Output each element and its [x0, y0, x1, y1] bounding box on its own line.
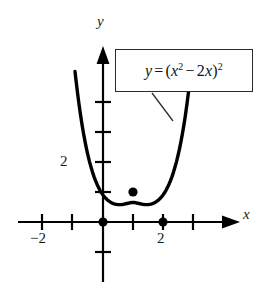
point-marker-local-max — [128, 187, 137, 196]
equation-inner-exponent: 2 — [178, 61, 183, 72]
x-tick-label-negative-2: −2 — [30, 231, 46, 246]
equation-text: y=(x2−2x)2 — [145, 61, 223, 80]
equation-coefficient: 2 — [197, 62, 205, 79]
y-axis-arrowhead — [97, 46, 110, 64]
point-marker-local-min-origin — [98, 217, 107, 226]
equation-minus: − — [184, 62, 197, 79]
plot-canvas — [0, 0, 267, 302]
x-tick-label-2: 2 — [157, 231, 165, 246]
equation-callout-box: y=(x2−2x)2 — [115, 49, 253, 92]
leader-line — [152, 93, 173, 121]
x-axis-arrowhead — [222, 216, 240, 229]
y-axis-label: y — [97, 14, 104, 29]
equation-outer-exponent: 2 — [218, 61, 223, 72]
x-axis-label: x — [243, 207, 250, 222]
point-marker-local-min-two — [158, 217, 167, 226]
equation-equals: = — [152, 62, 165, 79]
function-graph-figure: y x 2 2 −2 y=(x2−2x)2 — [0, 0, 267, 302]
y-tick-label-2: 2 — [60, 154, 68, 169]
